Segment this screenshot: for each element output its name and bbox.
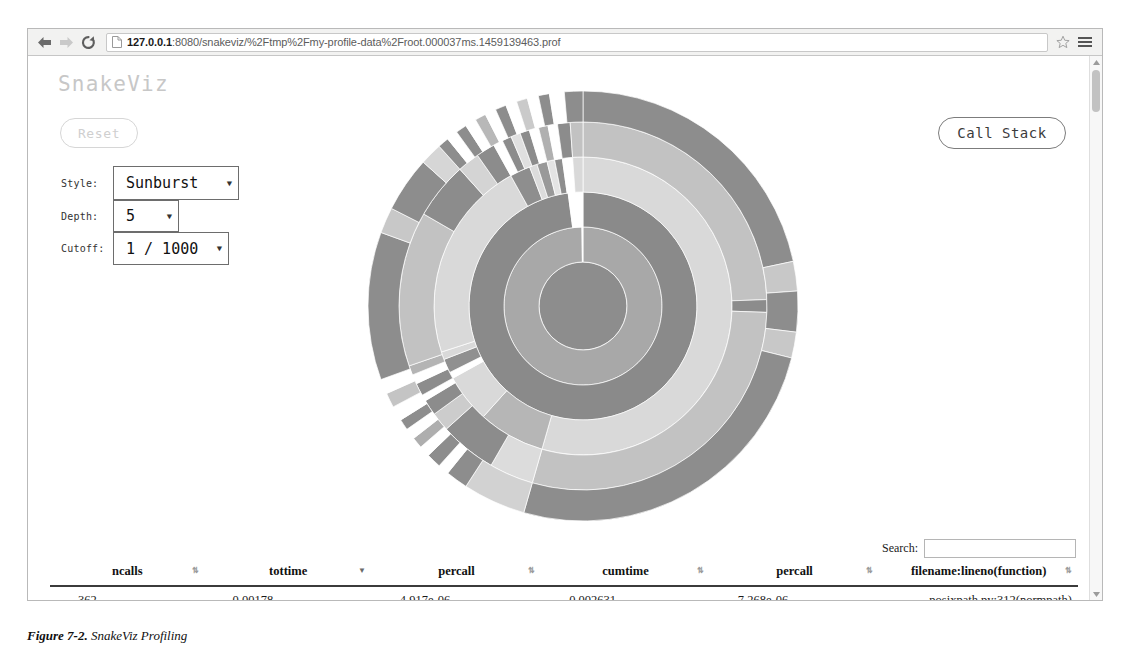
scrollbar-thumb[interactable]: [1092, 70, 1100, 112]
sunburst-segment-1-1[interactable]: [582, 227, 583, 262]
style-label: Style:: [61, 178, 113, 189]
search-input[interactable]: [924, 539, 1076, 558]
table-head: ncalls ⇅ tottime ▼ percall ⇅ cumtime: [50, 561, 1078, 586]
cutoff-select[interactable]: 1 / 1000 ▼: [113, 232, 229, 265]
sunburst-ring-0: [539, 262, 627, 350]
style-select-value: Sunburst: [126, 174, 198, 192]
url-host: 127.0.0.1: [127, 36, 172, 48]
column-label-percall-tot: percall: [438, 564, 475, 578]
column-label-ncalls: ncalls: [112, 564, 143, 578]
browser-window: 127.0.0.1:8080/snakeviz/%2Ftmp%2Fmy-prof…: [27, 28, 1103, 601]
table-header-row: ncalls ⇅ tottime ▼ percall ⇅ cumtime: [50, 561, 1078, 586]
sunburst-segment-5-2[interactable]: [766, 291, 798, 332]
browser-toolbar: 127.0.0.1:8080/snakeviz/%2Ftmp%2Fmy-prof…: [28, 29, 1102, 56]
column-header-percall-tot[interactable]: percall ⇅: [372, 561, 541, 586]
back-arrow-icon[interactable]: [34, 32, 54, 52]
sunburst-segment-0-0[interactable]: [539, 262, 627, 350]
chevron-down-icon: ▼: [167, 212, 172, 221]
column-header-cumtime[interactable]: cumtime ⇅: [541, 561, 710, 586]
cutoff-control-row: Cutoff: 1 / 1000 ▼: [61, 232, 229, 265]
bookmark-star-icon[interactable]: [1052, 32, 1074, 52]
sunburst-svg[interactable]: [353, 76, 813, 536]
screenshot-page: 127.0.0.1:8080/snakeviz/%2Ftmp%2Fmy-prof…: [0, 0, 1128, 654]
column-label-cumtime: cumtime: [602, 564, 649, 578]
table-body: 3620.001784.917e-060.0026317.268e-06posi…: [50, 586, 1078, 600]
cell-percall2: 7.268e-06: [710, 586, 879, 600]
sort-indicator-percall-cum: ⇅: [866, 567, 873, 575]
page-scrollbar[interactable]: [1089, 56, 1102, 600]
column-header-ncalls[interactable]: ncalls ⇅: [50, 561, 205, 586]
sunburst-segment-4-1[interactable]: [732, 300, 767, 313]
page-document-icon: [112, 36, 122, 48]
url-text: 127.0.0.1:8080/snakeviz/%2Ftmp%2Fmy-prof…: [127, 36, 561, 48]
search-label: Search:: [882, 541, 918, 556]
search-row: Search:: [882, 539, 1076, 558]
sunburst-segment-5-32[interactable]: [564, 91, 583, 123]
depth-control-row: Depth: 5 ▼: [61, 200, 179, 232]
scroll-up-icon[interactable]: [1090, 56, 1102, 68]
column-label-percall-cum: percall: [776, 564, 813, 578]
reload-icon[interactable]: [78, 32, 98, 52]
sunburst-chart[interactable]: [353, 76, 813, 536]
sort-indicator-tottime: ▼: [358, 567, 366, 575]
cell-cumtime: 0.002631: [541, 586, 710, 600]
column-header-percall-cum[interactable]: percall ⇅: [710, 561, 879, 586]
column-label-filename: filename:lineno(function): [911, 564, 1046, 578]
style-control-row: Style: Sunburst ▼: [61, 166, 239, 200]
depth-select[interactable]: 5 ▼: [113, 200, 179, 232]
table-row[interactable]: 3620.001784.917e-060.0026317.268e-06posi…: [50, 586, 1078, 600]
chevron-down-icon: ▼: [227, 179, 232, 188]
column-header-filename[interactable]: filename:lineno(function) ⇅: [879, 561, 1078, 586]
url-path: :8080/snakeviz/%2Ftmp%2Fmy-profile-data%…: [172, 36, 561, 48]
column-label-tottime: tottime: [269, 564, 307, 578]
depth-select-value: 5: [126, 207, 135, 225]
cell-tottime: 0.00178: [205, 586, 372, 600]
page-viewport: SnakeViz Reset Call Stack Style: Sunburs…: [28, 56, 1102, 600]
address-bar[interactable]: 127.0.0.1:8080/snakeviz/%2Ftmp%2Fmy-prof…: [106, 33, 1048, 52]
sunburst-segment-4-23[interactable]: [570, 122, 583, 157]
caption-number: Figure 7-2.: [27, 628, 88, 643]
depth-label: Depth:: [61, 211, 113, 222]
sort-indicator-filename: ⇅: [1065, 567, 1072, 575]
hamburger-menu-icon[interactable]: [1074, 32, 1096, 52]
cell-filename: posixpath.py:312(normpath): [879, 586, 1078, 600]
style-select[interactable]: Sunburst ▼: [113, 166, 239, 200]
forward-arrow-icon[interactable]: [56, 32, 76, 52]
cutoff-select-value: 1 / 1000: [126, 240, 198, 258]
reset-button[interactable]: Reset: [60, 118, 138, 148]
column-header-tottime[interactable]: tottime ▼: [205, 561, 372, 586]
chevron-down-icon: ▼: [217, 244, 222, 253]
scroll-down-icon[interactable]: [1090, 588, 1102, 600]
sort-indicator-percall-tot: ⇅: [528, 567, 535, 575]
sort-indicator-ncalls: ⇅: [192, 567, 199, 575]
call-stack-button[interactable]: Call Stack: [938, 117, 1066, 149]
sort-indicator-cumtime: ⇅: [697, 567, 704, 575]
page-title: SnakeViz: [58, 72, 169, 96]
cell-ncalls: 362: [50, 586, 205, 600]
cell-percall1: 4.917e-06: [372, 586, 541, 600]
profile-table: ncalls ⇅ tottime ▼ percall ⇅ cumtime: [50, 561, 1078, 600]
cutoff-label: Cutoff:: [61, 243, 113, 254]
caption-text: SnakeViz Profiling: [91, 628, 187, 643]
figure-caption: Figure 7-2. SnakeViz Profiling: [27, 628, 187, 644]
